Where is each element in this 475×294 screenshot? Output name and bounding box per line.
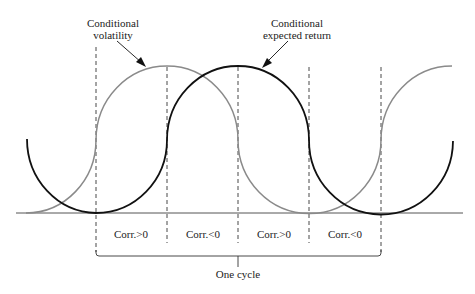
expected-return-label-line-1: Conditional: [263, 17, 331, 29]
expected-return-label-line-2: expected return: [263, 29, 331, 41]
expected-return-label: Conditional expected return: [263, 17, 331, 41]
volatility-curve: [26, 66, 452, 214]
volatility-label: Conditional volatility: [87, 17, 139, 41]
region-label-1: Corr.>0: [114, 228, 148, 240]
expected-return-arrow: [262, 41, 288, 68]
region-label-4: Corr.<0: [328, 228, 362, 240]
cycle-diagram: Conditional volatility Conditional expec…: [0, 0, 475, 294]
region-label-3: Corr.>0: [257, 228, 291, 240]
volatility-arrow: [117, 41, 146, 67]
region-label-2: Corr.<0: [186, 228, 220, 240]
volatility-label-line-2: volatility: [87, 29, 139, 41]
one-cycle-bracket: [96, 250, 381, 256]
one-cycle-label: One cycle: [216, 268, 260, 280]
expected-return-curve: [27, 66, 453, 214]
volatility-label-line-1: Conditional: [87, 17, 139, 29]
diagram-graphics: [0, 0, 475, 294]
